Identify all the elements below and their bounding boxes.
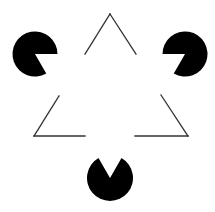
- outline-apex-left: [85, 14, 110, 54]
- pacman-inducers: [13, 32, 208, 201]
- pacman-top-left: [13, 32, 58, 77]
- triangle-outline: [34, 14, 188, 136]
- outline-apex-right: [110, 14, 136, 54]
- pacman-top-right: [163, 32, 208, 77]
- pacman-bottom: [87, 158, 133, 201]
- kanizsa-figure: [0, 0, 215, 212]
- outline-bottom-left-diag: [34, 96, 59, 136]
- outline-bottom-right-diag: [161, 95, 188, 136]
